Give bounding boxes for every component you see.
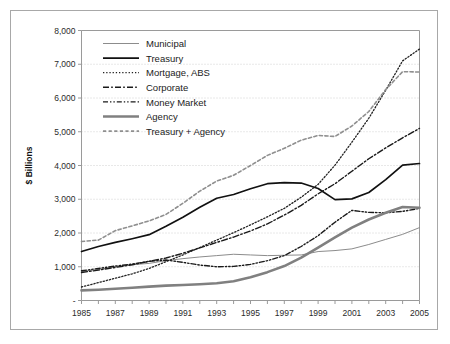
y-axis: -1,0002,0003,0004,0005,0006,0007,0008,00… (54, 26, 81, 306)
y-axis-tick-label: 5,000 (54, 127, 76, 137)
legend-item-label: Treasury (146, 53, 183, 64)
y-axis-tick-label: 3,000 (54, 194, 76, 204)
series-line-treasury-agency (82, 72, 420, 242)
x-axis-tick-label: 2001 (342, 308, 361, 318)
series-line-mortgage-abs (82, 49, 420, 287)
legend-item-label: Corporate (146, 82, 188, 93)
x-axis-tick-label: 2005 (410, 308, 429, 318)
legend-item-label: Treasury + Agency (146, 126, 225, 137)
x-axis-tick-label: 2003 (376, 308, 395, 318)
y-axis-tick-label: 4,000 (54, 161, 76, 171)
series-line-corporate (82, 128, 420, 272)
x-axis-tick-label: 1991 (173, 308, 192, 318)
x-axis-tick-label: 1999 (309, 308, 328, 318)
chart-container: -1,0002,0003,0004,0005,0006,0007,0008,00… (0, 0, 450, 344)
y-axis-tick-label: - (73, 296, 76, 306)
legend-item-label: Municipal (146, 38, 186, 49)
x-axis-tick-label: 1993 (207, 308, 226, 318)
y-axis-tick-label: 1,000 (54, 262, 76, 272)
legend-item-label: Money Market (146, 97, 207, 108)
x-axis-tick-label: 1997 (275, 308, 294, 318)
line-chart-svg: -1,0002,0003,0004,0005,0006,0007,0008,00… (0, 0, 450, 344)
y-axis-tick-label: 2,000 (54, 228, 76, 238)
series-lines (82, 49, 420, 290)
y-axis-tick-label: 7,000 (54, 59, 76, 69)
chart-legend: MunicipalTreasuryMortgage, ABSCorporateM… (103, 38, 225, 137)
series-line-treasury (82, 163, 420, 251)
y-axis-tick-label: 8,000 (54, 26, 76, 36)
y-axis-title: $ Billions (24, 146, 34, 184)
legend-item-label: Mortgage, ABS (146, 67, 210, 78)
y-axis-title-text: $ Billions (24, 146, 34, 184)
y-axis-tick-label: 6,000 (54, 93, 76, 103)
x-axis-tick-label: 1995 (241, 308, 260, 318)
x-axis-tick-label: 1985 (72, 308, 91, 318)
legend-item-label: Agency (146, 111, 178, 122)
series-line-agency (82, 207, 420, 290)
x-axis: 1985198719891991199319951997199920012003… (72, 31, 429, 318)
x-axis-tick-label: 1987 (106, 308, 125, 318)
x-axis-tick-label: 1989 (140, 308, 159, 318)
